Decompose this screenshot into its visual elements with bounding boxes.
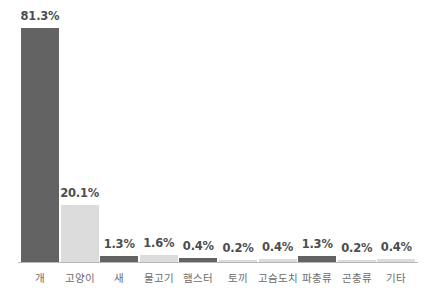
bar-chart: 81.3%20.1%1.3%1.6%0.4%0.2%0.4%1.3%0.2%0.…: [0, 0, 433, 294]
bar: [298, 256, 336, 262]
bar: [61, 205, 99, 262]
bar: [259, 259, 297, 262]
bar-column: [61, 0, 99, 263]
bar-column: [298, 0, 336, 263]
bar: [140, 255, 178, 262]
bar-column: [377, 0, 415, 263]
bar: [100, 256, 138, 262]
bar-column: [338, 0, 376, 263]
bar-column: [219, 0, 257, 263]
bar-column: [100, 0, 138, 263]
bar-value-label: 0.4%: [365, 240, 427, 254]
bar-column: [179, 0, 217, 263]
bar: [338, 260, 376, 262]
bar: [219, 260, 257, 262]
bar: [179, 258, 217, 262]
plot-area: 81.3%20.1%1.3%1.6%0.4%0.2%0.4%1.3%0.2%0.…: [0, 0, 433, 263]
bar: [21, 28, 59, 262]
bar: [377, 259, 415, 262]
bar-column: [259, 0, 297, 263]
bar-column: [21, 0, 59, 263]
category-label: 기타: [365, 270, 427, 285]
bar-column: [140, 0, 178, 263]
